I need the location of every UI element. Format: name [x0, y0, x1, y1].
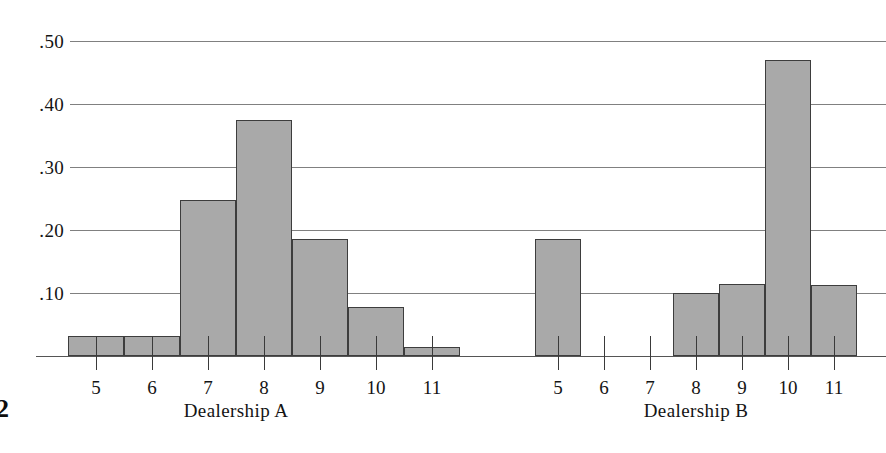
x-tick-label: 9 — [315, 378, 325, 397]
x-tick-label: 9 — [737, 378, 747, 397]
x-axis-baseline — [36, 356, 886, 357]
x-tick — [208, 336, 209, 370]
plot-area: .50 .40 .30 .20 .10 567891011 567891011 … — [0, 0, 886, 453]
x-tick-label: 10 — [367, 378, 386, 397]
ytick-0.40: .40 — [12, 95, 64, 114]
x-tick-label: 5 — [91, 378, 101, 397]
x-tick-label: 11 — [423, 378, 441, 397]
gridline-0.50 — [70, 41, 886, 42]
x-tick — [788, 336, 789, 370]
x-tick — [96, 336, 97, 370]
x-tick — [320, 336, 321, 370]
ytick-0.10: .10 — [12, 284, 64, 303]
x-tick — [650, 336, 651, 370]
ytick-label: .30 — [18, 158, 64, 177]
bar — [180, 200, 236, 356]
x-tick-label: 6 — [599, 378, 609, 397]
x-tick-label: 7 — [645, 378, 655, 397]
x-tick-label: 8 — [259, 378, 269, 397]
x-tick — [376, 336, 377, 370]
group-label-dealership-b: Dealership B — [644, 400, 749, 422]
x-tick — [696, 336, 697, 370]
x-tick-label: 8 — [691, 378, 701, 397]
x-tick — [432, 336, 433, 370]
ytick-0.50: .50 — [12, 32, 64, 51]
x-tick-label: 10 — [779, 378, 798, 397]
ytick-label: .20 — [18, 221, 64, 240]
ytick-0.20: .20 — [12, 221, 64, 240]
x-tick — [604, 336, 605, 370]
bar — [236, 120, 292, 356]
x-tick-label: 11 — [825, 378, 843, 397]
page-number: 2 — [0, 396, 9, 422]
ytick-label: .50 — [18, 32, 64, 51]
x-tick — [152, 336, 153, 370]
bar — [765, 60, 811, 356]
x-tick — [742, 336, 743, 370]
ytick-0.30: .30 — [12, 158, 64, 177]
x-tick-label: 5 — [553, 378, 563, 397]
histogram-figure: .50 .40 .30 .20 .10 567891011 567891011 … — [0, 0, 886, 453]
gridline-0.30 — [70, 167, 886, 168]
x-tick — [558, 336, 559, 370]
ytick-label: .10 — [18, 284, 64, 303]
x-tick-label: 6 — [147, 378, 157, 397]
gridline-0.40 — [70, 104, 886, 105]
x-tick-label: 7 — [203, 378, 213, 397]
x-tick — [264, 336, 265, 370]
ytick-label: .40 — [18, 95, 64, 114]
x-tick — [834, 336, 835, 370]
group-label-dealership-a: Dealership A — [184, 400, 289, 422]
